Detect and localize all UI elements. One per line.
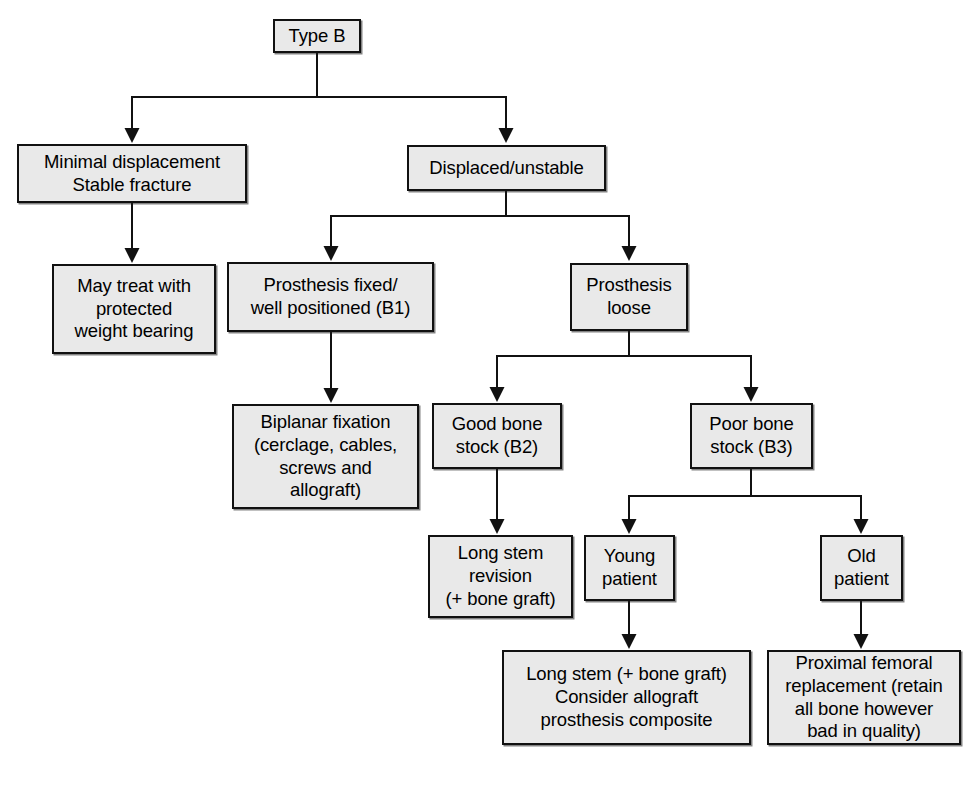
- node-label-line: Good bone: [452, 413, 543, 436]
- connector-straight-3-arrowhead-icon: [622, 634, 637, 649]
- node-label-line: weight bearing: [75, 320, 194, 343]
- node-label-line: all bone however: [795, 698, 933, 721]
- connector-split-3-right-branch-arrowhead-icon: [744, 387, 759, 402]
- node-label-line: Minimal displacement: [44, 151, 220, 174]
- node-label-line: bad in quality): [807, 720, 921, 743]
- node-label-line: (cerclage, cables,: [254, 434, 397, 457]
- node-label-line: prosthesis composite: [541, 709, 713, 732]
- node-label-line: Consider allograft: [555, 686, 698, 709]
- node-label-line: stock (B3): [710, 436, 792, 459]
- node-label-line: patient: [834, 568, 889, 591]
- node-old-patient: Oldpatient: [820, 535, 903, 601]
- node-label-line: replacement (retain: [785, 675, 942, 698]
- connector-split-4-right-branch-arrowhead-icon: [854, 519, 869, 534]
- node-label-line: Long stem (+ bone graft): [526, 663, 727, 686]
- node-label-line: (+ bone graft): [445, 588, 555, 611]
- connector-straight-0-arrowhead-icon: [125, 248, 140, 263]
- node-prosthesis-loose: Prosthesisloose: [570, 263, 688, 331]
- node-label-line: loose: [607, 297, 651, 320]
- node-label-line: Displaced/unstable: [429, 157, 584, 180]
- node-label-line: screws and: [279, 457, 372, 480]
- connector-straight-1-arrowhead-icon: [324, 388, 339, 403]
- node-minimal-displacement-stable-fracture: Minimal displacementStable fracture: [17, 144, 247, 203]
- node-label-line: patient: [602, 568, 657, 591]
- node-label-line: Poor bone: [709, 413, 793, 436]
- node-label-line: Stable fracture: [73, 174, 192, 197]
- node-label-line: Prosthesis fixed/: [263, 274, 397, 297]
- node-type-b: Type B: [273, 19, 361, 53]
- node-label-line: well positioned (B1): [251, 297, 410, 320]
- node-label-line: Biplanar fixation: [261, 411, 391, 434]
- node-label-line: Type B: [289, 25, 346, 48]
- node-poor-bone-stock-b3: Poor bonestock (B3): [690, 403, 813, 469]
- connector-split-3-left-branch-arrowhead-icon: [490, 387, 505, 402]
- node-prosthesis-fixed-well-positioned-b1: Prosthesis fixed/well positioned (B1): [227, 262, 434, 332]
- node-label-line: stock (B2): [456, 436, 538, 459]
- node-may-treat-protected-weight-bearing: May treat withprotectedweight bearing: [52, 264, 216, 354]
- node-label-line: Long stem: [458, 542, 544, 565]
- node-label-line: Proximal femoral: [795, 652, 932, 675]
- node-label-line: Old: [847, 545, 876, 568]
- node-label-line: protected: [96, 298, 172, 321]
- node-label-line: May treat with: [77, 275, 191, 298]
- node-good-bone-stock-b2: Good bonestock (B2): [432, 403, 562, 469]
- node-label-line: Prosthesis: [586, 274, 671, 297]
- node-displaced-unstable: Displaced/unstable: [407, 145, 606, 191]
- node-young-patient: Youngpatient: [584, 535, 675, 601]
- connector-split-1-left-branch-arrowhead-icon: [125, 128, 140, 143]
- connector-split-1-right-branch-arrowhead-icon: [499, 128, 514, 143]
- connector-straight-4-arrowhead-icon: [854, 634, 869, 649]
- connector-split-2-right-branch-arrowhead-icon: [622, 246, 637, 261]
- node-label-line: allograft): [290, 479, 361, 502]
- node-proximal-femoral-replacement: Proximal femoralreplacement (retainall b…: [767, 650, 961, 745]
- node-long-stem-consider-allograft-prosthesis-composite: Long stem (+ bone graft)Consider allogra…: [502, 650, 751, 745]
- node-biplanar-fixation: Biplanar fixation(cerclage, cables,screw…: [232, 404, 419, 509]
- node-long-stem-revision-bone-graft: Long stemrevision(+ bone graft): [428, 535, 573, 618]
- connector-split-2-left-branch-arrowhead-icon: [324, 246, 339, 261]
- connector-split-4-left-branch-arrowhead-icon: [622, 519, 637, 534]
- flowchart-canvas: Type BMinimal displacementStable fractur…: [0, 0, 977, 789]
- connector-straight-2-arrowhead-icon: [490, 519, 505, 534]
- node-label-line: Young: [604, 545, 655, 568]
- node-label-line: revision: [469, 565, 532, 588]
